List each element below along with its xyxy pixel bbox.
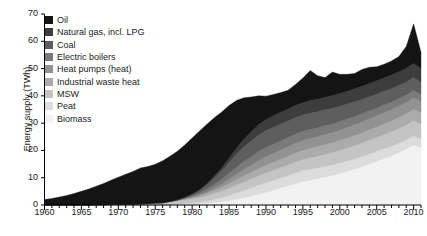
legend-item: Electric boilers bbox=[45, 51, 145, 63]
legend-item-label: Heat pumps (heat) bbox=[57, 64, 132, 74]
legend-swatch-icon bbox=[45, 16, 53, 24]
legend-swatch-icon bbox=[45, 41, 53, 49]
x-axis-tick-labels: 1960196519701975198019851990199520002005… bbox=[0, 207, 427, 223]
legend-item-label: Electric boilers bbox=[57, 52, 116, 62]
x-axis-tick-label: 1975 bbox=[135, 207, 175, 217]
legend-item: Oil bbox=[45, 14, 145, 26]
legend-item: Industrial waste heat bbox=[45, 75, 145, 87]
x-axis-tick-label: 1970 bbox=[98, 207, 138, 217]
x-axis-tick-label: 1995 bbox=[283, 207, 323, 217]
legend-swatch-icon bbox=[45, 65, 53, 73]
legend-swatch-icon bbox=[45, 78, 53, 86]
legend-swatch-icon bbox=[45, 102, 53, 110]
x-axis-tick-label: 2005 bbox=[357, 207, 397, 217]
x-axis-tick-label: 1965 bbox=[61, 207, 101, 217]
legend-swatch-icon bbox=[45, 115, 53, 123]
legend-item-label: Biomass bbox=[57, 114, 92, 124]
legend-swatch-icon bbox=[45, 28, 53, 36]
legend-item-label: Oil bbox=[57, 15, 68, 25]
x-axis-tick-label: 1960 bbox=[25, 207, 65, 217]
legend-item: Coal bbox=[45, 39, 145, 51]
legend-item-label: Industrial waste heat bbox=[57, 77, 140, 87]
x-axis-tick-label: 1990 bbox=[246, 207, 286, 217]
chart-legend: OilNatural gas, incl. LPGCoalElectric bo… bbox=[45, 14, 145, 125]
legend-swatch-icon bbox=[45, 90, 53, 98]
legend-item: Heat pumps (heat) bbox=[45, 63, 145, 75]
legend-item-label: Natural gas, incl. LPG bbox=[57, 27, 145, 37]
legend-item: MSW bbox=[45, 88, 145, 100]
legend-item-label: MSW bbox=[57, 89, 79, 99]
legend-item: Biomass bbox=[45, 112, 145, 124]
x-axis-tick-label: 2010 bbox=[394, 207, 427, 217]
legend-item-label: Peat bbox=[57, 101, 76, 111]
x-axis-tick-label: 2000 bbox=[320, 207, 360, 217]
legend-swatch-icon bbox=[45, 53, 53, 61]
legend-item: Peat bbox=[45, 100, 145, 112]
chart-figure: Energy supply (TWh) 010203040506070 1960… bbox=[0, 0, 427, 236]
legend-item-label: Coal bbox=[57, 40, 76, 50]
x-axis-tick-label: 1980 bbox=[172, 207, 212, 217]
x-axis-tick-label: 1985 bbox=[209, 207, 249, 217]
legend-item: Natural gas, incl. LPG bbox=[45, 26, 145, 38]
